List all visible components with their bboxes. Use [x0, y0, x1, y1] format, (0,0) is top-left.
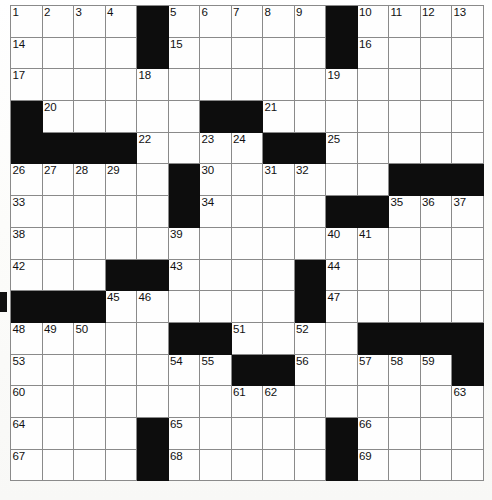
open-cell[interactable]: 24 [232, 133, 264, 165]
open-cell[interactable] [232, 38, 264, 70]
open-cell[interactable] [106, 228, 138, 260]
open-cell[interactable]: 8 [263, 6, 295, 38]
open-cell[interactable] [232, 164, 264, 196]
open-cell[interactable] [106, 101, 138, 133]
open-cell[interactable] [295, 228, 327, 260]
open-cell[interactable]: 40 [326, 228, 358, 260]
open-cell[interactable]: 61 [232, 386, 264, 418]
open-cell[interactable] [43, 355, 75, 387]
open-cell[interactable]: 52 [295, 323, 327, 355]
open-cell[interactable]: 1 [11, 6, 43, 38]
open-cell[interactable] [452, 260, 484, 292]
open-cell[interactable] [232, 228, 264, 260]
open-cell[interactable] [326, 164, 358, 196]
open-cell[interactable] [421, 291, 453, 323]
open-cell[interactable]: 63 [452, 386, 484, 418]
open-cell[interactable] [200, 450, 232, 482]
open-cell[interactable]: 9 [295, 6, 327, 38]
open-cell[interactable] [106, 386, 138, 418]
open-cell[interactable]: 49 [43, 323, 75, 355]
open-cell[interactable]: 41 [358, 228, 390, 260]
open-cell[interactable] [232, 69, 264, 101]
open-cell[interactable]: 27 [43, 164, 75, 196]
open-cell[interactable] [74, 101, 106, 133]
open-cell[interactable]: 60 [11, 386, 43, 418]
open-cell[interactable] [421, 386, 453, 418]
open-cell[interactable]: 30 [200, 164, 232, 196]
open-cell[interactable]: 16 [358, 38, 390, 70]
open-cell[interactable] [452, 450, 484, 482]
open-cell[interactable] [421, 260, 453, 292]
open-cell[interactable]: 34 [200, 196, 232, 228]
open-cell[interactable]: 19 [326, 69, 358, 101]
open-cell[interactable] [389, 101, 421, 133]
open-cell[interactable] [137, 323, 169, 355]
open-cell[interactable] [232, 450, 264, 482]
open-cell[interactable] [452, 418, 484, 450]
open-cell[interactable] [389, 133, 421, 165]
open-cell[interactable] [263, 323, 295, 355]
open-cell[interactable]: 58 [389, 355, 421, 387]
open-cell[interactable] [326, 323, 358, 355]
open-cell[interactable] [326, 355, 358, 387]
open-cell[interactable] [169, 291, 201, 323]
open-cell[interactable]: 28 [74, 164, 106, 196]
open-cell[interactable] [43, 418, 75, 450]
open-cell[interactable] [263, 291, 295, 323]
open-cell[interactable] [232, 418, 264, 450]
open-cell[interactable]: 2 [43, 6, 75, 38]
open-cell[interactable] [137, 228, 169, 260]
open-cell[interactable]: 64 [11, 418, 43, 450]
open-cell[interactable] [358, 260, 390, 292]
open-cell[interactable] [389, 450, 421, 482]
open-cell[interactable] [200, 386, 232, 418]
open-cell[interactable]: 14 [11, 38, 43, 70]
open-cell[interactable]: 18 [137, 69, 169, 101]
open-cell[interactable]: 37 [452, 196, 484, 228]
open-cell[interactable] [106, 418, 138, 450]
open-cell[interactable] [421, 418, 453, 450]
open-cell[interactable]: 57 [358, 355, 390, 387]
open-cell[interactable]: 65 [169, 418, 201, 450]
open-cell[interactable] [200, 260, 232, 292]
open-cell[interactable] [74, 69, 106, 101]
open-cell[interactable] [106, 69, 138, 101]
open-cell[interactable]: 59 [421, 355, 453, 387]
open-cell[interactable] [169, 133, 201, 165]
open-cell[interactable] [43, 196, 75, 228]
open-cell[interactable]: 45 [106, 291, 138, 323]
open-cell[interactable] [452, 291, 484, 323]
open-cell[interactable]: 42 [11, 260, 43, 292]
open-cell[interactable] [74, 355, 106, 387]
open-cell[interactable] [452, 101, 484, 133]
open-cell[interactable]: 48 [11, 323, 43, 355]
open-cell[interactable] [74, 228, 106, 260]
open-cell[interactable] [358, 386, 390, 418]
open-cell[interactable]: 5 [169, 6, 201, 38]
open-cell[interactable] [263, 38, 295, 70]
open-cell[interactable]: 7 [232, 6, 264, 38]
open-cell[interactable]: 25 [326, 133, 358, 165]
open-cell[interactable] [106, 196, 138, 228]
open-cell[interactable] [263, 418, 295, 450]
open-cell[interactable] [106, 38, 138, 70]
crossword-grid[interactable]: 1234567891011121314151617181920212223242… [10, 5, 484, 481]
open-cell[interactable]: 32 [295, 164, 327, 196]
open-cell[interactable] [200, 38, 232, 70]
open-cell[interactable]: 69 [358, 450, 390, 482]
open-cell[interactable] [295, 196, 327, 228]
open-cell[interactable] [137, 164, 169, 196]
open-cell[interactable] [358, 101, 390, 133]
open-cell[interactable] [106, 355, 138, 387]
open-cell[interactable] [295, 418, 327, 450]
open-cell[interactable] [74, 38, 106, 70]
open-cell[interactable]: 43 [169, 260, 201, 292]
open-cell[interactable]: 13 [452, 6, 484, 38]
open-cell[interactable]: 35 [389, 196, 421, 228]
open-cell[interactable]: 55 [200, 355, 232, 387]
open-cell[interactable] [389, 386, 421, 418]
open-cell[interactable] [232, 291, 264, 323]
open-cell[interactable]: 12 [421, 6, 453, 38]
open-cell[interactable] [137, 196, 169, 228]
open-cell[interactable] [43, 386, 75, 418]
